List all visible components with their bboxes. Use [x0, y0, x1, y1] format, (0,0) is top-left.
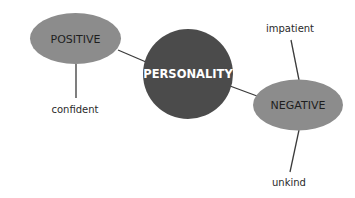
- connector-center-negative: [230, 86, 257, 96]
- label-impatient: impatient: [266, 23, 314, 34]
- connector-negative-unkind: [290, 130, 299, 172]
- connector-positive-center: [118, 50, 146, 62]
- diagram-svg: POSITIVE PERSONALITY NEGATIVE confident …: [0, 0, 355, 198]
- mind-map-diagram: POSITIVE PERSONALITY NEGATIVE confident …: [0, 0, 355, 198]
- label-personality: PERSONALITY: [143, 67, 233, 81]
- label-negative: NEGATIVE: [271, 99, 326, 112]
- label-confident: confident: [51, 104, 98, 115]
- label-unkind: unkind: [272, 177, 306, 188]
- label-positive: POSITIVE: [51, 33, 101, 46]
- connector-negative-impatient: [291, 40, 299, 80]
